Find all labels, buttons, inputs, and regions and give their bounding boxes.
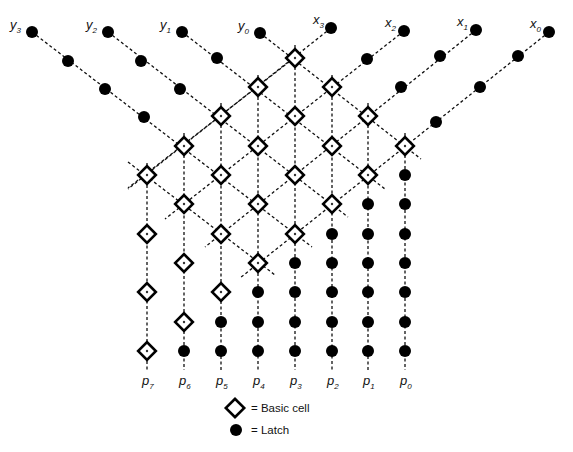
latch [289, 286, 301, 298]
latch [399, 257, 411, 269]
cell-mark [257, 262, 259, 264]
pipeline-latch [135, 55, 147, 67]
latch [326, 286, 338, 298]
latch-grid [26, 22, 555, 357]
legend: = Basic cell = Latch [226, 399, 310, 436]
latch [252, 316, 264, 328]
output-label-p1: p1 [362, 373, 375, 391]
cell-mark [146, 174, 148, 176]
cell-mark [257, 145, 259, 147]
cell-mark [220, 233, 222, 235]
x3-input-latch [325, 22, 337, 34]
output-label-p6: p6 [178, 373, 191, 391]
latch [289, 316, 301, 328]
x1-label: x1 [456, 14, 468, 32]
latch [326, 316, 338, 328]
cell-mark [331, 86, 333, 88]
cell-mark [257, 86, 259, 88]
cell-mark [367, 174, 369, 176]
cell-mark [220, 115, 222, 117]
cell-mark [183, 145, 185, 147]
latch [362, 345, 374, 357]
latch [399, 198, 411, 210]
cell-mark [146, 350, 148, 352]
cell-mark [257, 203, 259, 205]
y3-input-latch [26, 26, 38, 38]
latch [399, 316, 411, 328]
latch [215, 345, 227, 357]
latch [399, 286, 411, 298]
latch [362, 228, 374, 240]
pipeline-latch [62, 55, 74, 67]
latch [362, 198, 374, 210]
cell-mark [294, 174, 296, 176]
pipeline-latch [211, 52, 223, 64]
cell-mark [404, 145, 406, 147]
cell-mark [183, 262, 185, 264]
y3-label: y3 [9, 17, 22, 35]
legend-basic-cell-icon [226, 399, 244, 417]
systolic-multiplier-diagram: y0y1y2y3x3x2x1x0p7p6p5p4p3p2p1p0 = Basic… [0, 0, 573, 452]
y3-input-line [32, 32, 312, 247]
y1-input-latch [176, 26, 188, 38]
cell-mark [183, 203, 185, 205]
cell-mark [146, 233, 148, 235]
y1-label: y1 [159, 17, 171, 35]
y0-label: y0 [237, 18, 250, 36]
cell-mark [183, 321, 185, 323]
latch [362, 286, 374, 298]
pipeline-latch [99, 83, 111, 95]
output-label-p5: p5 [215, 373, 228, 391]
x0-input-latch [543, 26, 555, 38]
output-label-p4: p4 [252, 373, 265, 391]
cell-mark [294, 233, 296, 235]
legend-latch-icon [230, 424, 242, 436]
cell-mark [220, 291, 222, 293]
y2-input-latch [102, 26, 114, 38]
cell-mark [331, 145, 333, 147]
x1-input-line [205, 30, 476, 247]
pipeline-latch [430, 116, 442, 128]
x2-label: x2 [384, 15, 397, 33]
x2-input-latch [398, 25, 410, 37]
cell-mark [294, 57, 296, 59]
output-label-p3: p3 [289, 373, 302, 391]
pipeline-latch [512, 50, 524, 62]
latch [362, 257, 374, 269]
latch [399, 169, 411, 181]
pipeline-latch [361, 53, 373, 65]
pipeline-latch [138, 111, 150, 123]
output-label-p7: p7 [141, 373, 154, 391]
latch [326, 345, 338, 357]
cell-mark [146, 291, 148, 293]
x0-label: x0 [529, 16, 542, 34]
cell-mark [331, 203, 333, 205]
signal-labels: y0y1y2y3x3x2x1x0p7p6p5p4p3p2p1p0 [9, 12, 542, 391]
output-label-p0: p0 [399, 373, 412, 391]
y0-input-latch [254, 27, 266, 39]
cell-mark [367, 115, 369, 117]
cell-mark [294, 115, 296, 117]
latch [215, 316, 227, 328]
x1-input-latch [470, 24, 482, 36]
legend-basic-cell-label: = Basic cell [251, 402, 309, 414]
pipeline-latch [434, 50, 446, 62]
latch [289, 345, 301, 357]
latch [326, 228, 338, 240]
latch [252, 286, 264, 298]
legend-latch-label: = Latch [251, 424, 289, 436]
latch [399, 228, 411, 240]
cell-mark [220, 174, 222, 176]
y2-label: y2 [85, 17, 98, 35]
latch [326, 257, 338, 269]
latch [178, 345, 190, 357]
pipeline-latch [174, 83, 186, 95]
pipeline-latch [474, 81, 486, 93]
pipeline-latch [395, 81, 407, 93]
latch [252, 345, 264, 357]
latch [399, 345, 411, 357]
output-label-p2: p2 [326, 373, 339, 391]
y0-input-line [260, 33, 421, 159]
latch [289, 257, 301, 269]
latch [362, 316, 374, 328]
